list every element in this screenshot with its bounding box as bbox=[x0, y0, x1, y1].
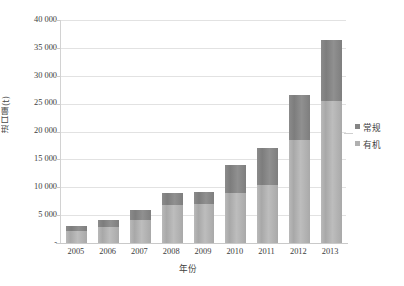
bar-segment-conventional[interactable] bbox=[321, 40, 342, 101]
y-axis-tickmark bbox=[56, 243, 60, 244]
bar-segment-conventional[interactable] bbox=[130, 210, 151, 220]
legend-item[interactable]: 有机 bbox=[355, 135, 403, 152]
y-axis-tickmark bbox=[56, 104, 60, 105]
bar-segment-conventional[interactable] bbox=[257, 148, 278, 185]
legend-item[interactable]: 常规 bbox=[355, 118, 403, 135]
bar-group[interactable] bbox=[162, 193, 183, 243]
bars-layer bbox=[61, 20, 346, 243]
bar-group[interactable] bbox=[66, 226, 87, 243]
bar-group[interactable] bbox=[225, 165, 246, 243]
bar-segment-organic[interactable] bbox=[66, 231, 87, 243]
x-axis-tick-labels: 200520062007200820092010201120122013 bbox=[60, 247, 346, 261]
bar-segment-conventional[interactable] bbox=[289, 95, 310, 140]
x-axis-line bbox=[60, 243, 348, 244]
legend-item-label: 有机 bbox=[363, 138, 381, 150]
x-axis-tick-label: 2011 bbox=[251, 247, 283, 257]
bar-group[interactable] bbox=[289, 95, 310, 243]
bar-segment-organic[interactable] bbox=[98, 227, 119, 243]
x-axis-tick-label: 2006 bbox=[92, 247, 124, 257]
y-axis-tick-label: 35 000 bbox=[13, 44, 57, 52]
y-axis-title-text: 进口量(t) bbox=[1, 96, 11, 133]
y-axis-tick-label: 40 000 bbox=[13, 16, 57, 24]
bar-group[interactable] bbox=[98, 220, 119, 243]
x-axis-tick-label: 2005 bbox=[60, 247, 92, 257]
x-axis-tick-label: 2010 bbox=[219, 247, 251, 257]
legend-leader-line bbox=[344, 133, 353, 134]
y-axis-tickmark bbox=[56, 159, 60, 160]
bar-segment-organic[interactable] bbox=[162, 205, 183, 243]
y-axis-tick-label: - bbox=[13, 239, 57, 247]
bar-group[interactable] bbox=[257, 148, 278, 243]
y-axis-tick-labels: 40 00035 00030 00025 00020 00015 00010 0… bbox=[14, 0, 60, 286]
bar-segment-conventional[interactable] bbox=[162, 193, 183, 205]
x-axis-title: 年份 bbox=[0, 262, 404, 274]
chart-container: 进口量(t) 40 00035 00030 00025 00020 00015 … bbox=[0, 0, 404, 286]
x-axis-tick-label: 2009 bbox=[187, 247, 219, 257]
y-axis-tick-label: 25 000 bbox=[13, 99, 57, 107]
legend-item-label: 常规 bbox=[363, 121, 381, 133]
y-axis-tickmark bbox=[56, 48, 60, 49]
bar-segment-conventional[interactable] bbox=[66, 226, 87, 231]
bar-segment-conventional[interactable] bbox=[98, 220, 119, 228]
bar-segment-organic[interactable] bbox=[130, 220, 151, 243]
chart-legend: 常规有机 bbox=[355, 118, 403, 152]
x-axis-tick-label: 2012 bbox=[282, 247, 314, 257]
y-axis-tickmark bbox=[56, 20, 60, 21]
bar-segment-conventional[interactable] bbox=[194, 192, 215, 204]
y-axis-tick-label: 20 000 bbox=[13, 127, 57, 135]
bar-segment-conventional[interactable] bbox=[225, 165, 246, 193]
bar-segment-organic[interactable] bbox=[225, 193, 246, 243]
y-axis-tickmark bbox=[56, 76, 60, 77]
x-axis-tick-label: 2008 bbox=[155, 247, 187, 257]
y-axis-tickmark bbox=[56, 187, 60, 188]
plot-area bbox=[60, 20, 346, 243]
bar-segment-organic[interactable] bbox=[321, 101, 342, 243]
y-axis-tick-label: 30 000 bbox=[13, 72, 57, 80]
x-axis-tick-label: 2007 bbox=[124, 247, 156, 257]
bar-segment-organic[interactable] bbox=[257, 185, 278, 243]
y-axis-tick-label: 15 000 bbox=[13, 155, 57, 163]
legend-swatch-icon bbox=[355, 141, 360, 146]
x-axis-title-text: 年份 bbox=[179, 264, 197, 274]
bar-segment-organic[interactable] bbox=[289, 140, 310, 243]
y-axis-tick-label: 5 000 bbox=[13, 211, 57, 219]
y-axis-tickmark bbox=[56, 132, 60, 133]
bar-group[interactable] bbox=[194, 192, 215, 243]
y-axis-tick-label: 10 000 bbox=[13, 183, 57, 191]
legend-swatch-icon bbox=[355, 124, 360, 129]
x-axis-tick-label: 2013 bbox=[314, 247, 346, 257]
y-axis-tickmark bbox=[56, 215, 60, 216]
bar-segment-organic[interactable] bbox=[194, 204, 215, 243]
bar-group[interactable] bbox=[130, 210, 151, 243]
bar-group[interactable] bbox=[321, 40, 342, 243]
